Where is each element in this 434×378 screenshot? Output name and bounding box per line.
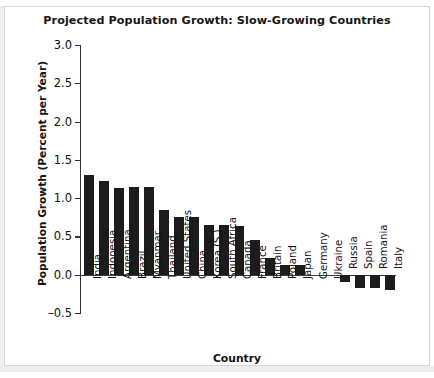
y-axis-tick xyxy=(75,198,81,199)
x-axis-tick-label: Poland xyxy=(287,245,298,279)
x-axis-tick-label: Thailand xyxy=(167,235,178,279)
x-axis-tick-label: Canada xyxy=(242,240,253,279)
x-axis-tick-label: United States xyxy=(182,210,193,279)
x-axis-tick-label: Indonesia xyxy=(107,229,118,278)
y-axis-tick xyxy=(75,160,81,161)
chart-title: Projected Population Growth: Slow-Growin… xyxy=(0,14,434,27)
y-axis-tick-label: 3.0 xyxy=(54,38,72,52)
y-axis-tick xyxy=(75,45,81,46)
y-axis-spine xyxy=(80,45,81,313)
y-axis-tick xyxy=(75,275,81,276)
y-axis-tick-label: 0.5 xyxy=(54,229,72,243)
x-axis-tick-label: India xyxy=(92,254,103,279)
y-axis-tick-label: 1.5 xyxy=(54,153,72,167)
y-axis-tick xyxy=(75,236,81,237)
y-axis-tick-label: 1.0 xyxy=(54,191,72,205)
plot-area: 3.02.52.01.51.00.50.0–0.5 IndiaIndonesia… xyxy=(80,45,396,313)
x-axis-tick-label: Spain xyxy=(363,240,374,268)
x-axis-tick-label: Ukraine xyxy=(333,239,344,278)
x-axis-tick-label: Germany xyxy=(318,232,329,279)
bar xyxy=(355,275,365,288)
y-axis-tick-label: –0.5 xyxy=(48,306,72,320)
x-axis-tick-label: Russia xyxy=(348,236,359,269)
bar xyxy=(385,275,395,290)
y-axis-tick xyxy=(75,313,81,314)
x-axis-tick-label: Britain xyxy=(272,245,283,279)
x-axis-tick-label: Romania xyxy=(378,224,389,269)
y-axis-tick xyxy=(75,122,81,123)
y-axis-tick xyxy=(75,83,81,84)
x-axis-title: Country xyxy=(78,352,396,365)
x-axis-tick-label: Myanmar xyxy=(152,231,163,279)
y-axis-tick-label: 0.0 xyxy=(54,268,72,282)
y-axis-tick-label: 2.0 xyxy=(54,115,72,129)
bar xyxy=(370,275,380,288)
y-axis-title: Population Growth (Percent per Year) xyxy=(36,66,48,286)
x-axis-tick-label: Korea (S.) xyxy=(212,229,223,279)
x-axis-tick-label: Italy xyxy=(393,247,404,269)
x-axis-tick-label: Argentina xyxy=(122,229,133,279)
y-axis-tick-label: 2.5 xyxy=(54,76,72,90)
chart-figure: Projected Population Growth: Slow-Growin… xyxy=(0,0,434,378)
x-axis-tick-label: South Africa xyxy=(227,217,238,279)
figure-edge-shadow-bottom xyxy=(0,366,434,372)
x-axis-tick-label: France xyxy=(257,245,268,279)
x-axis-tick-label: Japan xyxy=(302,250,313,278)
x-axis-tick-label: Brazil xyxy=(137,250,148,278)
x-axis-tick-label: China xyxy=(197,250,208,279)
